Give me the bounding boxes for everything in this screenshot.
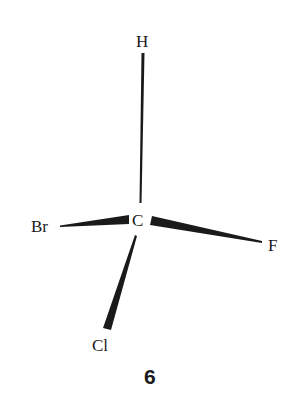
atom-c: C bbox=[132, 211, 143, 230]
atom-cl: Cl bbox=[92, 336, 108, 355]
bond-c-cl bbox=[103, 235, 137, 330]
bond-c-h bbox=[140, 53, 145, 203]
bond-c-f bbox=[150, 216, 262, 243]
molecule-diagram: H C Br F Cl 6 bbox=[0, 0, 302, 413]
atom-br: Br bbox=[31, 217, 48, 236]
atom-h: H bbox=[136, 32, 148, 51]
atom-f: F bbox=[268, 236, 277, 255]
bond-c-br bbox=[60, 215, 129, 227]
compound-number: 6 bbox=[144, 365, 156, 388]
